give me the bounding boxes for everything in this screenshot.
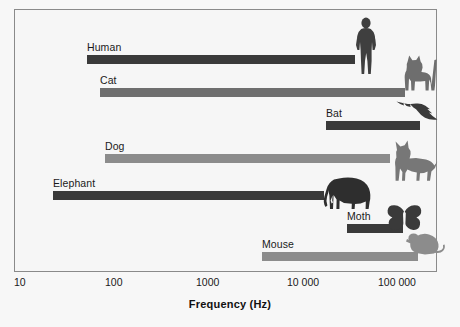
bar-label-moth: Moth: [347, 210, 371, 222]
bar-mouse: [262, 252, 418, 261]
bar-cat: [100, 88, 405, 97]
cat-silhouette-icon: [401, 52, 439, 92]
mouse-silhouette-icon: [404, 230, 446, 260]
bar-elephant: [53, 191, 324, 200]
bar-dog: [105, 154, 390, 163]
human-silhouette-icon: [352, 17, 380, 75]
axis-tick-100: 100: [105, 276, 123, 288]
frequency-range-chart: Human Cat Bat Dog Elephant Moth Mouse: [0, 0, 460, 327]
bar-bat: [326, 121, 420, 130]
bar-label-human: Human: [87, 41, 121, 53]
bar-human: [87, 55, 355, 64]
elephant-silhouette-icon: [322, 176, 372, 210]
bar-label-mouse: Mouse: [262, 238, 294, 250]
axis-tick-1000: 1000: [196, 276, 219, 288]
axis-tick-10000: 10 000: [287, 276, 319, 288]
dog-silhouette-icon: [390, 140, 438, 182]
x-axis-title: Frequency (Hz): [0, 298, 460, 310]
bar-label-bat: Bat: [326, 107, 342, 119]
bar-label-dog: Dog: [105, 140, 125, 152]
axis-tick-10: 10: [14, 276, 26, 288]
bar-label-cat: Cat: [100, 74, 117, 86]
bat-silhouette-icon: [396, 98, 438, 122]
axis-tick-100000: 100 000: [378, 276, 416, 288]
bar-label-elephant: Elephant: [53, 177, 95, 189]
